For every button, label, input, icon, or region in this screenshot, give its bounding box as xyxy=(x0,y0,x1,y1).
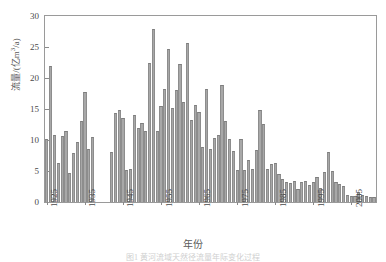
bar xyxy=(372,197,375,202)
x-axis-tick-label: 1975 xyxy=(241,189,250,207)
bar xyxy=(258,110,261,202)
bar xyxy=(49,66,52,202)
x-axis-tick-mark xyxy=(123,202,124,205)
bar xyxy=(175,90,178,202)
bar xyxy=(220,85,223,202)
bar xyxy=(64,131,67,202)
bar xyxy=(83,92,86,202)
bar xyxy=(137,128,140,202)
bar xyxy=(369,197,372,202)
bar xyxy=(296,189,299,202)
bar xyxy=(251,169,254,202)
x-axis-tick-mark xyxy=(199,202,200,205)
bar xyxy=(289,183,292,202)
bar xyxy=(236,170,239,202)
y-axis-tick-label: 15 xyxy=(15,105,39,114)
bar xyxy=(68,173,71,202)
bar xyxy=(110,152,113,202)
bar xyxy=(274,163,277,202)
bar xyxy=(152,29,155,202)
x-axis-tick-label: 1925 xyxy=(50,189,59,207)
x-axis-tick-mark xyxy=(237,202,238,205)
bar xyxy=(270,164,273,202)
bar xyxy=(308,185,311,202)
y-axis-tick-label: 10 xyxy=(15,136,39,145)
bar xyxy=(327,152,330,202)
x-axis-tick-mark xyxy=(351,202,352,205)
bar xyxy=(118,110,121,202)
bar xyxy=(205,89,208,202)
bar xyxy=(72,153,75,202)
x-axis-tick-mark xyxy=(161,202,162,205)
y-axis-tick-label: 5 xyxy=(15,167,39,176)
x-axis-tick-mark xyxy=(85,202,86,205)
bar-series xyxy=(45,16,376,202)
bar xyxy=(178,64,181,202)
x-axis-tick-mark xyxy=(313,202,314,205)
bar xyxy=(232,151,235,202)
y-axis-title-main: 流量/(亿m xyxy=(11,51,21,91)
bar xyxy=(182,102,185,202)
bar xyxy=(255,150,258,202)
bar xyxy=(334,182,337,202)
bar xyxy=(331,171,334,202)
bar xyxy=(163,89,166,202)
x-axis-tick-label: 1935 xyxy=(88,189,97,207)
bar xyxy=(293,181,296,202)
bar xyxy=(217,135,220,202)
y-axis-tick-label: 20 xyxy=(15,74,39,83)
bar xyxy=(190,120,193,202)
bar xyxy=(342,186,345,202)
x-axis-tick-mark xyxy=(47,202,48,205)
bar xyxy=(224,121,227,202)
x-axis-tick-mark xyxy=(275,202,276,205)
bar xyxy=(186,43,189,202)
x-axis-tick-label: 1955 xyxy=(165,189,174,207)
bar xyxy=(114,113,117,202)
figure-caption: 图1 黄河流域天然径流量年际变化过程 xyxy=(0,251,386,262)
bar xyxy=(156,131,159,202)
bar xyxy=(338,184,341,202)
bar xyxy=(159,106,162,202)
x-axis-tick-label: 1985 xyxy=(279,189,288,207)
bar xyxy=(346,195,349,202)
bar xyxy=(365,196,368,202)
y-axis-tick-label: 0 xyxy=(15,198,39,207)
bar xyxy=(167,49,170,202)
bar xyxy=(228,139,231,202)
bar xyxy=(148,63,151,203)
bar xyxy=(140,123,143,202)
bar xyxy=(80,121,83,202)
bar xyxy=(171,108,174,202)
bar xyxy=(197,112,200,202)
y-axis-tick-label: 25 xyxy=(15,43,39,52)
bar xyxy=(194,105,197,202)
bar xyxy=(213,138,216,202)
bar xyxy=(266,169,269,202)
x-axis-title: 年份 xyxy=(0,236,386,251)
bar xyxy=(312,182,315,202)
x-axis-tick-label: 1945 xyxy=(126,189,135,207)
bar xyxy=(45,139,48,202)
bar xyxy=(144,131,147,202)
x-axis-tick-label: 1965 xyxy=(203,189,212,207)
bar xyxy=(61,136,64,202)
plot-area: 051015202530 192519351945195519651975198… xyxy=(44,15,377,203)
x-axis-tick-label: 2005 xyxy=(355,189,364,207)
bar xyxy=(304,181,307,202)
x-axis-tick-label: 1995 xyxy=(317,189,326,207)
bar xyxy=(300,182,303,202)
y-axis-tick-label: 30 xyxy=(15,12,39,21)
bar xyxy=(262,124,265,202)
bar xyxy=(76,142,79,202)
